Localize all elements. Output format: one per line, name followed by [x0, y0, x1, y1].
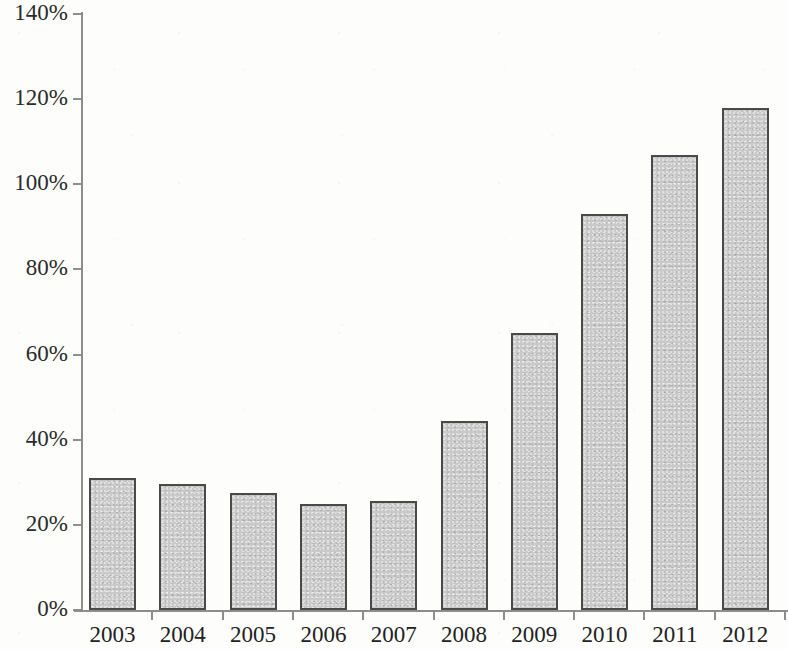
bar	[300, 504, 347, 610]
y-axis-tick-label: 20%	[26, 512, 68, 535]
x-axis-tick-label: 2012	[705, 623, 785, 646]
bar	[89, 478, 136, 610]
bar	[230, 493, 277, 610]
y-axis-tick	[73, 524, 82, 526]
bar	[651, 155, 698, 611]
y-axis-tick-label: 80%	[26, 256, 68, 279]
x-axis-tick-label: 2010	[565, 623, 645, 646]
x-axis-tick-label: 2006	[283, 623, 363, 646]
bar	[370, 501, 417, 610]
bar	[511, 333, 558, 610]
bar	[581, 214, 628, 610]
x-axis-tick	[714, 611, 716, 620]
y-axis-tick	[73, 183, 82, 185]
y-axis-tick	[73, 268, 82, 270]
x-axis-tick	[643, 611, 645, 620]
y-axis-tick	[73, 439, 82, 441]
bar	[441, 421, 488, 610]
x-axis-tick	[292, 611, 294, 620]
bar	[159, 484, 206, 610]
x-axis-tick-label: 2011	[635, 623, 715, 646]
x-axis-line	[74, 610, 788, 612]
x-axis-tick-label: 2004	[143, 623, 223, 646]
y-axis-tick-label: 40%	[26, 427, 68, 450]
x-axis-tick-label: 2003	[73, 623, 153, 646]
y-axis-tick	[73, 13, 82, 15]
y-axis-tick	[73, 354, 82, 356]
x-axis-tick-label: 2008	[424, 623, 504, 646]
x-axis-tick-label: 2005	[213, 623, 293, 646]
bar	[722, 108, 769, 610]
y-axis-tick-label: 140%	[14, 1, 68, 24]
y-axis-tick-label: 60%	[26, 342, 68, 365]
bar-chart: 0%20%40%60%80%100%120%140% 2003200420052…	[0, 0, 788, 649]
x-axis-tick	[784, 611, 786, 620]
plot-area	[82, 14, 788, 610]
y-axis-tick-label: 100%	[14, 171, 68, 194]
y-axis-tick-label: 0%	[37, 597, 68, 620]
y-axis-tick-label: 120%	[14, 86, 68, 109]
x-axis-tick-label: 2009	[494, 623, 574, 646]
x-axis-tick	[433, 611, 435, 620]
x-axis-tick-label: 2007	[354, 623, 434, 646]
x-axis-tick	[573, 611, 575, 620]
x-axis-tick	[151, 611, 153, 620]
x-axis-tick	[222, 611, 224, 620]
x-axis-tick	[503, 611, 505, 620]
x-axis-tick	[362, 611, 364, 620]
y-axis-tick	[73, 609, 82, 611]
y-axis-tick	[73, 98, 82, 100]
